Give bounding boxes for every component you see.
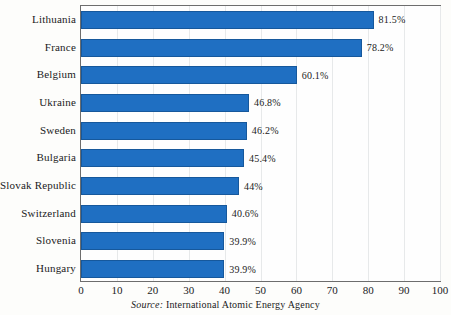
x-tick-label: 100 (432, 284, 449, 296)
bar-value-label: 44% (244, 181, 263, 192)
plot-area: 81.5%78.2%60.1%46.8%46.2%45.4%44%40.6%39… (80, 5, 441, 282)
category-label: Slovenia (36, 227, 76, 255)
bar[interactable] (81, 232, 224, 250)
bar-row[interactable]: 46.8% (81, 89, 440, 117)
bar-row[interactable]: 81.5% (81, 6, 440, 34)
bar[interactable] (81, 149, 244, 167)
bar[interactable] (81, 11, 374, 29)
x-tick-label: 40 (219, 284, 230, 296)
bar[interactable] (81, 205, 227, 223)
bar-row[interactable]: 39.9% (81, 255, 440, 283)
gridline (440, 6, 441, 281)
bar[interactable] (81, 177, 239, 195)
category-label: Switzerland (21, 199, 76, 227)
bar-row[interactable]: 60.1% (81, 61, 440, 89)
bar-row[interactable]: 40.6% (81, 200, 440, 228)
x-tick-label: 80 (363, 284, 374, 296)
bar-value-label: 46.2% (252, 125, 279, 136)
x-tick-label: 20 (147, 284, 158, 296)
x-tick-label: 50 (255, 284, 266, 296)
bar-value-label: 81.5% (379, 14, 406, 25)
x-tick-label: 60 (291, 284, 302, 296)
category-label: Hungary (36, 254, 76, 282)
x-tick-label: 70 (327, 284, 338, 296)
bar-rows: 81.5%78.2%60.1%46.8%46.2%45.4%44%40.6%39… (81, 6, 440, 281)
category-label: Belgium (37, 60, 76, 88)
x-tick-label: 0 (78, 284, 84, 296)
category-label: Ukraine (39, 88, 76, 116)
bar[interactable] (81, 94, 249, 112)
bar-value-label: 45.4% (249, 153, 276, 164)
bar-row[interactable]: 46.2% (81, 117, 440, 145)
bar[interactable] (81, 39, 362, 57)
category-label: Bulgaria (37, 144, 76, 172)
category-label: Lithuania (32, 5, 76, 33)
bar-row[interactable]: 44% (81, 172, 440, 200)
bar-value-label: 60.1% (302, 70, 329, 81)
category-label: Slovak Republic (0, 171, 76, 199)
bar-row[interactable]: 78.2% (81, 34, 440, 62)
bar-value-label: 40.6% (232, 208, 259, 219)
source-note: Source: International Atomic Energy Agen… (0, 299, 451, 310)
bar-chart-figure: 81.5%78.2%60.1%46.8%46.2%45.4%44%40.6%39… (0, 0, 451, 315)
x-tick-label: 30 (183, 284, 194, 296)
category-label: France (45, 33, 76, 61)
category-label: Sweden (40, 116, 76, 144)
bar-row[interactable]: 39.9% (81, 228, 440, 256)
bar-value-label: 78.2% (367, 42, 394, 53)
bar-row[interactable]: 45.4% (81, 145, 440, 173)
bar[interactable] (81, 260, 224, 278)
x-axis-tick-labels: 0102030405060708090100 (80, 284, 441, 298)
source-prefix: Source: (131, 299, 163, 310)
bar-value-label: 46.8% (254, 97, 281, 108)
bar-value-label: 39.9% (229, 236, 256, 247)
bar-value-label: 39.9% (229, 264, 256, 275)
source-text: International Atomic Energy Agency (166, 299, 320, 310)
x-tick-label: 90 (399, 284, 410, 296)
bar[interactable] (81, 122, 247, 140)
bar[interactable] (81, 66, 297, 84)
x-tick-label: 10 (111, 284, 122, 296)
category-axis-labels: LithuaniaFranceBelgiumUkraineSwedenBulga… (0, 5, 76, 282)
